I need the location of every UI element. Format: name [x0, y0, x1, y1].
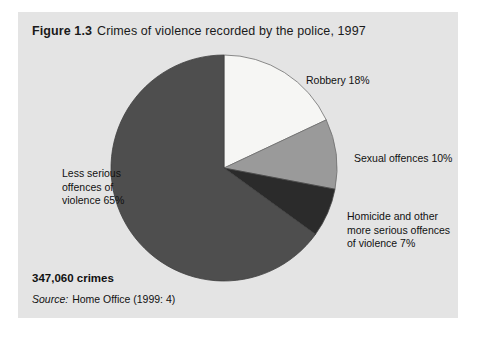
source-value: Home Office (1999: 4): [72, 293, 175, 305]
pie-label-less-serious-line3: violence 65%: [62, 194, 124, 206]
figure-box: Figure 1.3Crimes of violence recorded by…: [18, 12, 458, 318]
pie-label-less-serious-line1: Less serious: [62, 167, 121, 179]
pie-label-less-serious-line2: offences of: [62, 181, 113, 193]
pie-label-homicide: Homicide and other more serious offences…: [347, 210, 472, 251]
figure-caption: Crimes of violence recorded by the polic…: [97, 24, 366, 38]
source-line: Source:Home Office (1999: 4): [32, 293, 175, 305]
pie-label-homicide-line2: more serious offences: [347, 224, 450, 236]
pie-label-homicide-line1: Homicide and other: [347, 210, 438, 222]
source-keyword: Source:: [32, 293, 68, 305]
total-crimes-label: 347,060 crimes: [32, 272, 114, 284]
pie-label-robbery: Robbery 18%: [306, 74, 370, 88]
figure-number: Figure 1.3: [32, 24, 92, 38]
pie-label-sexual-offences: Sexual offences 10%: [354, 152, 452, 166]
pie-label-homicide-line3: of violence 7%: [347, 237, 415, 249]
pie-label-less-serious: Less serious offences of violence 65%: [62, 167, 158, 208]
figure-title: Figure 1.3Crimes of violence recorded by…: [32, 24, 366, 38]
